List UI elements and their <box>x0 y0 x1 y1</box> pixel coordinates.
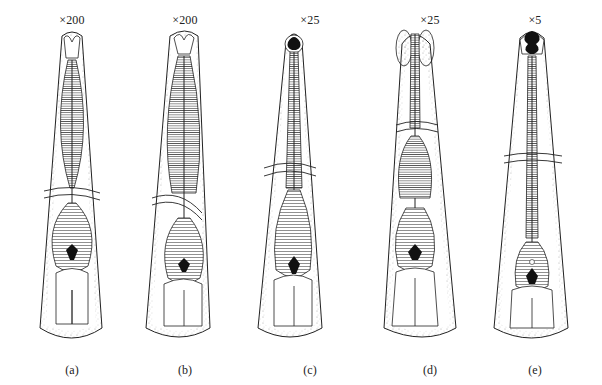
panel-c: ×25 (c) <box>250 0 370 385</box>
panel-caption: (b) <box>130 363 240 378</box>
nematode-d-illustration <box>380 28 480 358</box>
panel-caption: (a) <box>22 363 122 378</box>
nematode-c-illustration <box>250 28 370 358</box>
magnification-label: ×200 <box>130 13 240 28</box>
panel-caption: (e) <box>480 363 590 378</box>
panel-b: ×200 (b) <box>130 0 240 385</box>
panel-caption: (d) <box>380 363 480 378</box>
magnification-label: ×25 <box>250 13 370 28</box>
panel-a: ×200 (a) <box>22 0 122 385</box>
magnification-label: ×200 <box>22 13 122 28</box>
magnification-label: ×25 <box>380 13 480 28</box>
panel-e: ×5 (e) <box>480 0 590 385</box>
panel-d: ×25 (d) <box>380 0 480 385</box>
panel-caption: (c) <box>250 363 370 378</box>
nematode-b-illustration <box>130 28 240 358</box>
magnification-label: ×5 <box>480 13 590 28</box>
nematode-a-illustration <box>22 28 122 358</box>
nematode-e-illustration <box>480 28 590 358</box>
